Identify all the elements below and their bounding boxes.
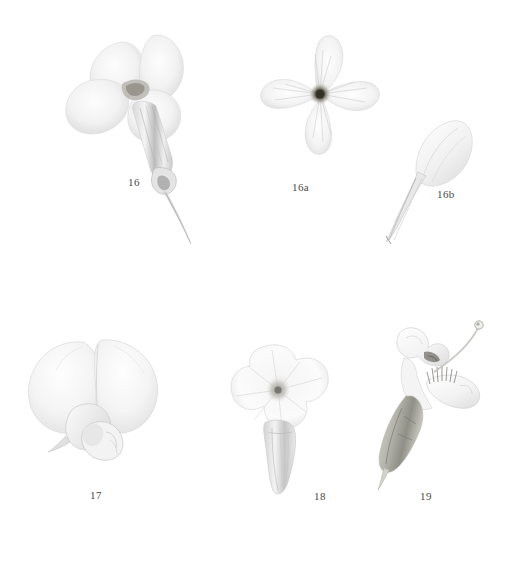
figure-18-tube	[264, 420, 296, 494]
figure-18	[208, 336, 338, 496]
figure-16a	[255, 30, 385, 170]
figure-16	[60, 18, 250, 248]
figure-16b-caption: 16b	[437, 188, 455, 200]
figure-16-petals	[66, 35, 184, 142]
figure-16a-caption: 16a	[292, 181, 309, 193]
figure-19-caption: 19	[420, 490, 432, 502]
figure-17-caption: 17	[90, 489, 102, 501]
botanical-plate: 16	[0, 0, 518, 567]
figure-18-caption: 18	[314, 490, 326, 502]
figure-16a-petals	[261, 36, 380, 155]
figure-19-ovary	[378, 396, 423, 490]
figure-16b	[372, 112, 482, 247]
figure-16b-petal	[386, 121, 472, 244]
figure-19	[360, 312, 500, 492]
figure-18-limb	[231, 345, 328, 428]
figure-16-caption: 16	[128, 176, 140, 188]
figure-17	[18, 328, 178, 468]
